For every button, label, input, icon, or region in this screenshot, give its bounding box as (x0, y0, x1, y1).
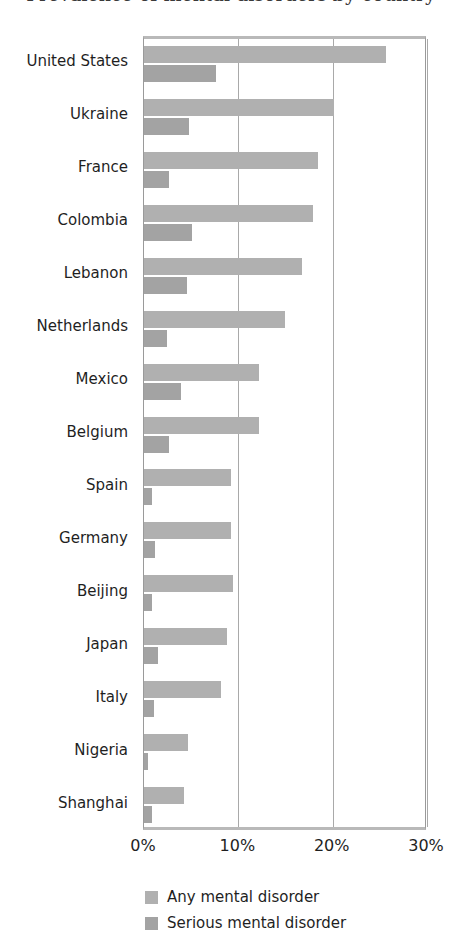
category-label: Netherlands (0, 317, 128, 335)
bar-any-mental-disorder (144, 152, 318, 169)
bar-any-mental-disorder (144, 787, 184, 804)
category-label: Nigeria (0, 741, 128, 759)
legend-swatch-icon (145, 891, 158, 904)
bar-serious-mental-disorder (144, 700, 154, 717)
bar-serious-mental-disorder (144, 647, 158, 664)
bar-any-mental-disorder (144, 575, 233, 592)
bar-row (144, 780, 425, 833)
category-label: Beijing (0, 582, 128, 600)
bar-serious-mental-disorder (144, 118, 189, 135)
legend-label: Any mental disorder (167, 888, 319, 906)
bar-row (144, 727, 425, 780)
category-label: Japan (0, 635, 128, 653)
bar-any-mental-disorder (144, 681, 221, 698)
bar-any-mental-disorder (144, 734, 188, 751)
bar-row (144, 145, 425, 198)
bar-any-mental-disorder (144, 417, 259, 434)
bar-any-mental-disorder (144, 628, 227, 645)
bar-row (144, 92, 425, 145)
bar-row (144, 251, 425, 304)
bar-serious-mental-disorder (144, 65, 216, 82)
category-label: France (0, 158, 128, 176)
bar-serious-mental-disorder (144, 753, 148, 770)
bar-serious-mental-disorder (144, 171, 169, 188)
bar-row (144, 462, 425, 515)
legend-item: Serious mental disorder (145, 910, 445, 936)
category-label: United States (0, 52, 128, 70)
bar-serious-mental-disorder (144, 541, 155, 558)
bar-row (144, 357, 425, 410)
x-axis-tick-labels: 0%10%20%30% (0, 836, 462, 864)
bar-row (144, 515, 425, 568)
bar-serious-mental-disorder (144, 488, 152, 505)
bar-row (144, 568, 425, 621)
chart-legend: Any mental disorderSerious mental disord… (145, 884, 445, 936)
plot-area (143, 36, 426, 830)
bar-row (144, 674, 425, 727)
bar-serious-mental-disorder (144, 330, 167, 347)
category-label: Colombia (0, 211, 128, 229)
bar-rows (144, 39, 425, 827)
x-tick-label: 20% (314, 836, 350, 855)
x-tick-label: 0% (130, 836, 155, 855)
bar-serious-mental-disorder (144, 436, 169, 453)
bar-serious-mental-disorder (144, 224, 192, 241)
category-label: Ukraine (0, 105, 128, 123)
bar-row (144, 198, 425, 251)
bar-serious-mental-disorder (144, 277, 187, 294)
bar-any-mental-disorder (144, 364, 259, 381)
bar-row (144, 39, 425, 92)
bar-any-mental-disorder (144, 522, 231, 539)
x-tick-label: 30% (408, 836, 444, 855)
category-axis-labels: United StatesUkraineFranceColombiaLebano… (0, 36, 136, 830)
bar-serious-mental-disorder (144, 594, 152, 611)
category-label: Lebanon (0, 264, 128, 282)
bar-any-mental-disorder (144, 46, 386, 63)
category-label: Spain (0, 476, 128, 494)
legend-swatch-icon (145, 917, 158, 930)
bar-row (144, 304, 425, 357)
gridline-30pct (427, 39, 428, 827)
bar-row (144, 410, 425, 463)
category-label: Mexico (0, 370, 128, 388)
cropped-chart-title: Prevalence of mental disorders by countr… (0, 0, 462, 14)
category-label: Shanghai (0, 794, 128, 812)
bar-serious-mental-disorder (144, 383, 181, 400)
legend-item: Any mental disorder (145, 884, 445, 910)
bar-serious-mental-disorder (144, 806, 152, 823)
bar-any-mental-disorder (144, 99, 334, 116)
category-label: Belgium (0, 423, 128, 441)
bar-any-mental-disorder (144, 258, 302, 275)
bar-row (144, 621, 425, 674)
category-label: Germany (0, 529, 128, 547)
legend-label: Serious mental disorder (167, 914, 346, 932)
bar-any-mental-disorder (144, 469, 231, 486)
bar-any-mental-disorder (144, 205, 313, 222)
chart-figure: Prevalence of mental disorders by countr… (0, 0, 462, 946)
category-label: Italy (0, 688, 128, 706)
x-tick-label: 10% (220, 836, 256, 855)
bar-any-mental-disorder (144, 311, 285, 328)
chart-title-text: Prevalence of mental disorders by countr… (0, 0, 462, 5)
